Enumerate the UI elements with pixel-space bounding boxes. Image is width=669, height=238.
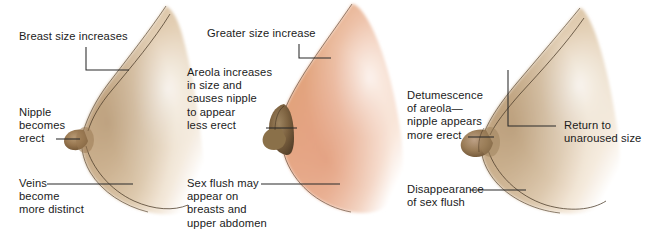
panel-resolution-phase: Detumescence of areola— nipple appears m…: [398, 0, 669, 238]
label-breast-size-increases: Breast size increases: [19, 30, 128, 43]
nipple-excitement: [64, 127, 94, 153]
panel-plateau-phase: Greater size increase Areola increases i…: [185, 0, 410, 238]
label-veins-become-more-distinct: Veins become more distinct: [19, 177, 84, 217]
label-return-to-unaroused-size: Return to unaroused size: [564, 119, 641, 145]
label-areola-increases: Areola increases in size and causes nipp…: [187, 66, 272, 132]
figure-canvas: Breast size increases Nipple becomes ere…: [0, 0, 669, 238]
label-greater-size-increase: Greater size increase: [207, 27, 316, 40]
label-detumescence-of-areola: Detumescence of areola— nipple appears m…: [407, 89, 483, 142]
label-nipple-becomes-erect: Nipple becomes erect: [19, 106, 65, 146]
label-sex-flush: Sex flush may appear on breasts and uppe…: [187, 177, 267, 230]
label-disappearance-of-sex-flush: Disappearance of sex flush: [407, 183, 484, 209]
